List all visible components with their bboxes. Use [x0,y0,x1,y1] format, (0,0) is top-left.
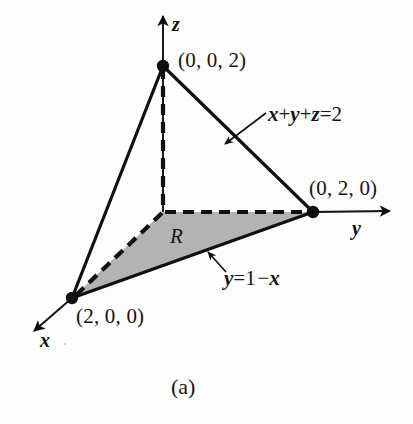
figure-container: (0, 0, 2) (0, 2, 0) (2, 0, 0) z y x R x+… [0,0,413,424]
axis-x [34,298,72,331]
figure-caption: (a) [171,376,195,398]
vertex-dot-x-intercept [66,292,78,304]
region-label-R: R [170,226,183,247]
axis-label-x: x [40,330,50,350]
vertex-dot-z-intercept [157,60,169,72]
edge-z-to-y [163,66,313,212]
axis-label-z: z [172,14,180,34]
vertex-label-x-intercept: (2, 0, 0) [76,306,144,327]
vertex-label-z-intercept: (0, 0, 2) [178,50,246,71]
axis-label-y: y [352,218,361,238]
vertex-label-y-intercept: (0, 2, 0) [309,178,377,199]
plane-equation-leader [225,113,266,144]
line-equation-label: y=1 −x [224,268,280,289]
plane-equation-label: x+y+z=2 [268,104,342,125]
vertex-dot-y-intercept [307,206,319,218]
axis-y [313,211,390,212]
scan-speck [64,343,66,345]
